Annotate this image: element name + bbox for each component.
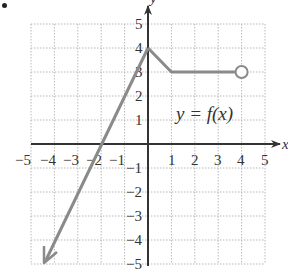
x-tick: −1: [109, 152, 125, 168]
y-tick: −1: [126, 160, 142, 176]
x-tick: 5: [261, 152, 269, 168]
y-tick: 2: [135, 88, 143, 104]
x-tick: −3: [63, 152, 79, 168]
y-tick: 4: [135, 40, 143, 56]
x-tick: 2: [191, 152, 199, 168]
y-tick: 5: [135, 16, 143, 32]
x-tick: 3: [214, 152, 222, 168]
open-endpoint-circle: [236, 66, 248, 78]
x-tick: 4: [237, 152, 245, 168]
function-graph: x y −5 −4 −3 −2 −1 1 2 3 4 5 5 4 3 2 1 −…: [0, 0, 288, 273]
x-tick: 1: [168, 152, 176, 168]
x-axis-label: x: [281, 136, 288, 152]
y-tick: 1: [135, 112, 143, 128]
y-tick: −2: [126, 184, 142, 200]
x-tick: −5: [15, 152, 31, 168]
y-tick: −4: [126, 232, 142, 248]
x-tick: −4: [40, 152, 56, 168]
y-tick: −3: [126, 208, 142, 224]
y-axis-label: y: [148, 0, 157, 6]
y-tick: −5: [126, 256, 142, 272]
function-label: y = f(x): [174, 103, 233, 125]
